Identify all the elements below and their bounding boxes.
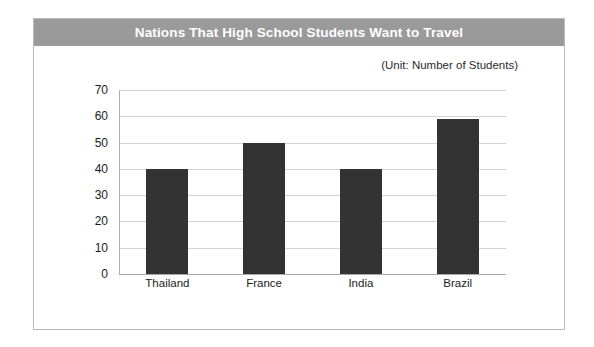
title-banner: Nations That High School Students Want t… <box>34 19 564 46</box>
y-tick-label: 50 <box>95 136 108 150</box>
bar-slot <box>119 90 216 274</box>
bar-slot <box>216 90 313 274</box>
bar-slot <box>313 90 410 274</box>
y-axis-tick-labels: 010203040506070 <box>34 90 116 274</box>
y-tick-label: 0 <box>101 267 108 281</box>
bar-brazil[interactable] <box>437 119 479 274</box>
gridline <box>119 274 506 275</box>
plot-area <box>119 90 506 274</box>
unit-note: (Unit: Number of Students) <box>381 59 518 71</box>
bar-thailand[interactable] <box>146 169 188 274</box>
y-tick-label: 40 <box>95 162 108 176</box>
x-tick-label: Brazil <box>409 277 506 297</box>
x-axis-tick-labels: ThailandFranceIndiaBrazil <box>119 277 506 297</box>
bar-series <box>119 90 506 274</box>
bar-india[interactable] <box>340 169 382 274</box>
y-tick-label: 60 <box>95 109 108 123</box>
y-tick-label: 30 <box>95 188 108 202</box>
y-tick-label: 20 <box>95 214 108 228</box>
x-tick-label: Thailand <box>119 277 216 297</box>
y-tick-label: 10 <box>95 241 108 255</box>
y-tick-label: 70 <box>95 83 108 97</box>
figure-frame: Nations That High School Students Want t… <box>33 18 565 330</box>
chart-title: Nations That High School Students Want t… <box>135 25 463 40</box>
x-tick-label: France <box>216 277 313 297</box>
x-tick-label: India <box>313 277 410 297</box>
bar-france[interactable] <box>243 143 285 274</box>
bar-slot <box>409 90 506 274</box>
